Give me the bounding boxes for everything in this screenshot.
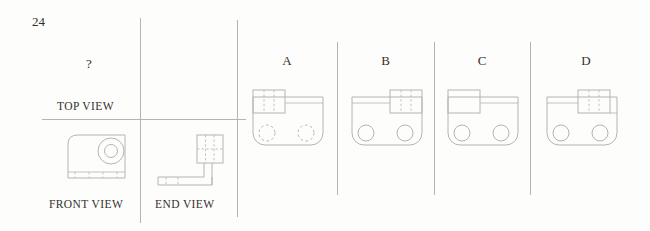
question-number: 24 — [32, 14, 45, 30]
hole-circle — [259, 125, 275, 141]
front-view-drawing — [60, 128, 135, 186]
hole-circle — [298, 125, 314, 141]
front-view-hole-circle — [105, 145, 118, 158]
front-view-label: FRONT VIEW — [49, 198, 123, 210]
option-d[interactable]: D — [531, 42, 641, 195]
option-c-drawing — [440, 81, 530, 153]
option-d-drawing — [539, 81, 629, 153]
end-view-block-outline — [197, 135, 223, 163]
option-block — [253, 90, 285, 113]
end-view-drawing — [150, 130, 230, 190]
hole-circle — [397, 125, 413, 141]
option-b-drawing — [344, 81, 434, 153]
option-a[interactable]: A — [238, 42, 336, 195]
end-view-label: END VIEW — [155, 198, 215, 210]
projection-question-panel: 24 ? TOP VIEW FRONT VIEW END VIEW A B — [0, 0, 650, 231]
option-b[interactable]: B — [338, 42, 433, 195]
option-c-label: C — [435, 53, 529, 69]
views-horizontal-divider — [42, 119, 246, 120]
front-view-boss-circle — [98, 138, 124, 164]
hole-circle — [493, 125, 509, 141]
option-body-outline — [253, 97, 323, 145]
option-block — [390, 90, 422, 113]
option-block — [448, 90, 480, 113]
top-view-label: TOP VIEW — [57, 100, 114, 112]
hole-circle — [592, 125, 608, 141]
option-c[interactable]: C — [435, 42, 529, 195]
option-block — [578, 90, 610, 113]
hole-circle — [553, 125, 569, 141]
unknown-top-view-mark: ? — [86, 56, 92, 72]
views-vertical-divider — [140, 18, 141, 223]
front-view-outline — [68, 135, 125, 178]
option-b-label: B — [338, 53, 433, 69]
hole-circle — [454, 125, 470, 141]
hole-circle — [358, 125, 374, 141]
option-a-drawing — [245, 81, 335, 153]
option-d-label: D — [531, 53, 641, 69]
option-a-label: A — [238, 53, 336, 69]
